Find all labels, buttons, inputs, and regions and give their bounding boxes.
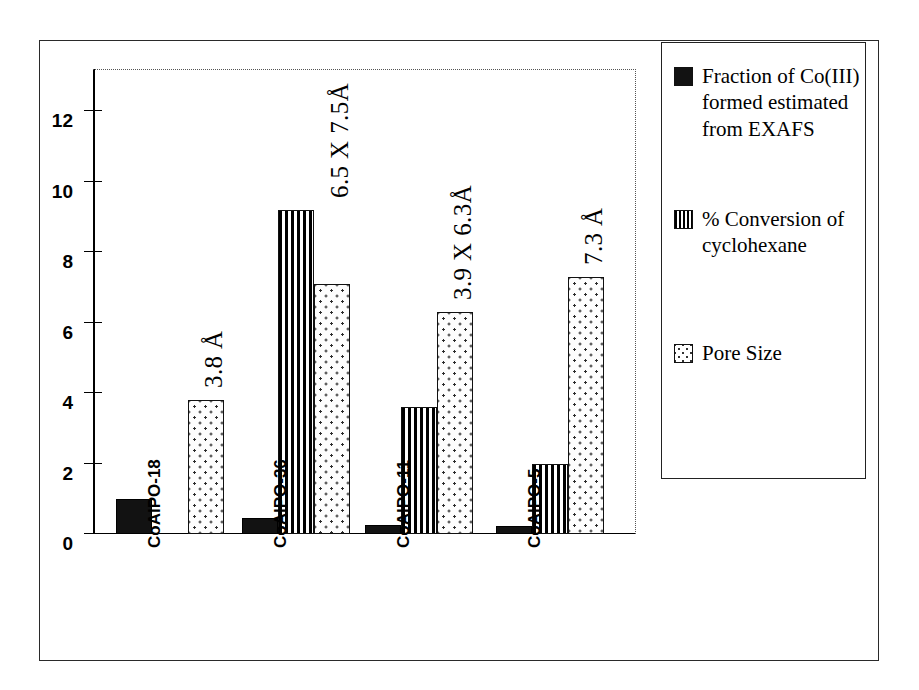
bar-annotation-coalpo-18: 3.8 Å [201, 331, 226, 389]
legend-swatch-dotted-icon [674, 344, 693, 363]
bar-coalpo-18-series3 [188, 400, 224, 534]
bar-coalpo-5-series3 [568, 277, 604, 534]
y-axis-tick: 2 [84, 463, 102, 464]
bar-annotation-coalpo-11: 3.9 X 6.3Å [450, 185, 475, 300]
x-axis-label-coalpo-11: CoAlPO-11 [395, 460, 412, 548]
y-axis-tick: 6 [84, 322, 102, 323]
plot-area: 024681012 3.8 Å6.5 X 7.5Å3.9 X 6.3Å7.3 Å [93, 69, 636, 534]
grid-top-border [93, 69, 636, 70]
y-axis-line [93, 69, 95, 534]
bar-coalpo-36-series3 [314, 284, 350, 534]
y-axis-tick: 8 [84, 251, 102, 252]
bar-annotation-coalpo-36: 6.5 X 7.5Å [327, 83, 352, 198]
bar-annotation-coalpo-5: 7.3 Å [581, 207, 606, 265]
y-axis-tick: 4 [84, 392, 102, 393]
figure-frame: 024681012 3.8 Å6.5 X 7.5Å3.9 X 6.3Å7.3 Å… [39, 40, 879, 661]
legend-swatch-solid-icon [674, 67, 693, 86]
legend-label: Pore Size [702, 340, 782, 366]
legend-swatch-striped-icon [674, 210, 693, 229]
legend-item-2[interactable]: % Conversion of cyclohexane [674, 206, 865, 259]
plot-panel: 024681012 3.8 Å6.5 X 7.5Å3.9 X 6.3Å7.3 Å… [93, 69, 637, 574]
legend-label: Fraction of Co(III) formed estimated fro… [702, 63, 865, 142]
chart-legend: Fraction of Co(III) formed estimated fro… [661, 42, 866, 479]
chart-page: { "chart_data": { "type": "bar", "title"… [0, 0, 919, 690]
y-axis-tick: 10 [84, 181, 102, 182]
y-axis-tick: 0 [84, 533, 102, 534]
legend-item-1[interactable]: Fraction of Co(III) formed estimated fro… [674, 63, 865, 142]
legend-label: % Conversion of cyclohexane [702, 206, 865, 259]
grid-right-border [635, 69, 636, 534]
x-axis-label-coalpo-18: CoAlPO-18 [146, 459, 163, 548]
x-axis-label-coalpo-5: CoAlPO-5 [526, 469, 543, 548]
bar-coalpo-11-series3 [437, 312, 473, 534]
x-axis-label-coalpo-36: CoAlPO-36 [272, 459, 289, 548]
y-axis-tick: 12 [84, 110, 102, 111]
legend-item-3[interactable]: Pore Size [674, 340, 782, 366]
